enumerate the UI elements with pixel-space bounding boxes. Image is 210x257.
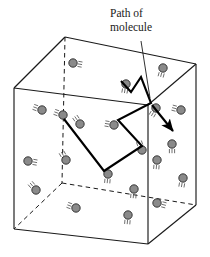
annotation-line-1: Path of	[110, 7, 143, 19]
molecule	[168, 140, 176, 153]
molecule-motion-streak	[105, 126, 108, 127]
molecule-motion-streak	[122, 89, 123, 92]
molecule-disc	[32, 186, 40, 194]
molecule-disc	[153, 156, 161, 164]
annotation-line-2: molecule	[110, 21, 152, 33]
molecule-disc	[159, 64, 167, 72]
molecule-disc	[69, 59, 77, 67]
molecule-disc	[62, 156, 70, 164]
molecule-motion-streak	[127, 90, 128, 93]
molecule-motion-streak	[179, 183, 180, 186]
molecule-disc	[124, 211, 132, 219]
molecule-motion-streak	[79, 61, 82, 62]
molecule-disc	[38, 106, 46, 114]
background	[0, 0, 210, 257]
molecule-disc	[76, 120, 84, 128]
molecule-disc	[130, 185, 138, 193]
molecule-disc	[24, 157, 32, 165]
molecule-motion-streak	[33, 165, 36, 166]
molecule-motion-streak	[105, 123, 108, 124]
molecule-motion-streak	[184, 184, 185, 187]
molecule-disc	[153, 199, 161, 207]
molecule-diffusion-figure: Path of molecule	[0, 0, 210, 257]
molecule-motion-streak	[181, 183, 182, 186]
molecule-disc	[179, 174, 187, 182]
molecule-disc	[59, 111, 67, 119]
molecule-motion-streak	[34, 159, 37, 160]
molecule-disc	[72, 204, 80, 212]
molecule-disc	[168, 140, 176, 148]
molecule-motion-streak	[33, 162, 36, 163]
molecule-motion-streak	[78, 67, 81, 68]
molecule-motion-streak	[78, 64, 81, 65]
molecule-motion-streak	[124, 89, 125, 92]
diagram-canvas: Path of molecule	[0, 0, 210, 257]
molecule-motion-streak	[106, 121, 109, 122]
molecule-disc	[110, 121, 118, 129]
molecule-disc	[177, 106, 185, 114]
